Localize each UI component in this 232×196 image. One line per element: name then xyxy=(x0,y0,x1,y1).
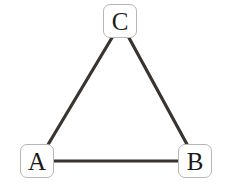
graph-node-b-label: B xyxy=(187,148,204,173)
graph-node-c-label: C xyxy=(112,8,129,33)
graph-node-c[interactable]: C xyxy=(103,4,137,38)
graph-node-b[interactable]: B xyxy=(178,144,212,178)
graph-node-a[interactable]: A xyxy=(20,144,54,178)
edge-c-b xyxy=(128,36,189,148)
graph-node-a-label: A xyxy=(28,148,46,173)
graph-diagram-canvas: C A B xyxy=(0,0,232,196)
edge-a-c xyxy=(46,36,113,148)
